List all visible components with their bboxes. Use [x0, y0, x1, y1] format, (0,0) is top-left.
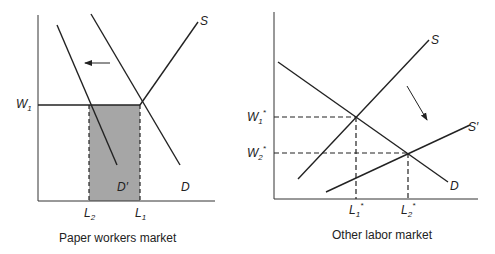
labor-market-diagram: W1 L2 L1 S D D′ Paper workers market W1*…	[0, 0, 495, 254]
other-labor-market-panel: W1* W2* L1* L2* S S′ D Other labor marke…	[247, 12, 479, 242]
w1-star-label: W1*	[247, 108, 267, 126]
left-caption: Paper workers market	[59, 231, 177, 245]
l2-star-label: L2*	[401, 201, 416, 219]
demand-d-curve	[278, 62, 448, 182]
supply-s-label: S	[200, 14, 208, 28]
right-caption: Other labor market	[332, 228, 433, 242]
w2-star-label: W2*	[247, 144, 267, 162]
demand-d-prime-curve	[57, 25, 117, 165]
w1-label: W1	[16, 97, 32, 113]
wage-floor-shaded-area	[89, 105, 140, 201]
supply-s-label: S	[431, 33, 439, 47]
demand-d-label: D	[450, 179, 459, 193]
l1-star-label: L1*	[349, 201, 364, 219]
l2-label: L2	[84, 206, 96, 222]
supply-shift-arrow-icon	[407, 86, 427, 120]
supply-s-curve	[140, 22, 198, 105]
demand-d-label: D	[181, 180, 190, 194]
supply-s-prime-curve	[326, 125, 470, 192]
paper-workers-market-panel: W1 L2 L1 S D D′ Paper workers market	[16, 14, 215, 245]
supply-s-curve	[298, 40, 429, 179]
demand-d-prime-label: D′	[117, 180, 129, 194]
l1-label: L1	[135, 206, 146, 222]
supply-s-prime-label: S′	[468, 120, 479, 134]
